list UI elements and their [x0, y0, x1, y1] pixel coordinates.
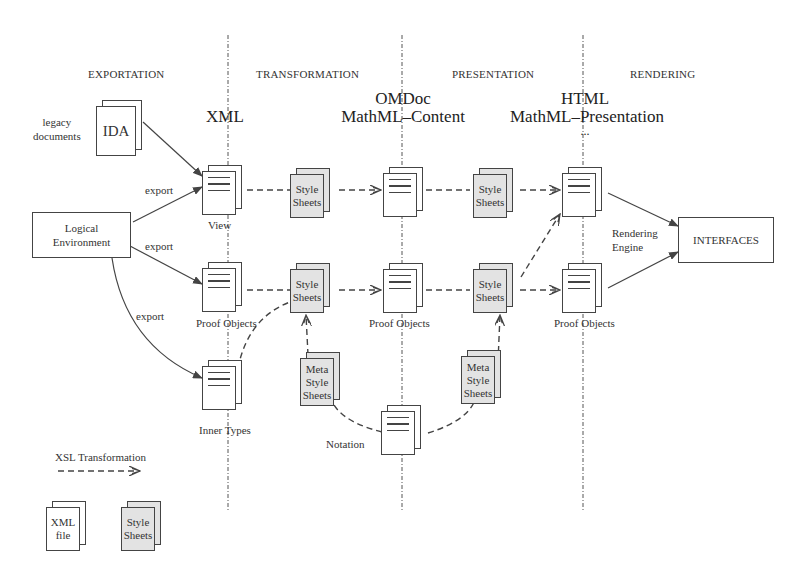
format-html-line1: HTML	[510, 90, 660, 108]
style-sheets-4-label: StyleSheets	[473, 269, 507, 313]
legacy-line1: legacy	[33, 115, 81, 129]
doc-lines-icon	[389, 179, 411, 198]
doc-lines-icon	[208, 177, 230, 196]
legacy-line2: documents	[33, 129, 81, 143]
legend-style-sheets: StyleSheets	[121, 501, 161, 551]
legacy-documents-label: legacy documents	[33, 115, 81, 143]
edge-html-proof-to-interfaces	[608, 252, 678, 288]
ida-document[interactable]: IDA	[96, 100, 144, 156]
html-proof-objects-document[interactable]	[562, 263, 602, 313]
logical-line2: Environment	[53, 235, 110, 249]
style-sheets-1-label: StyleSheets	[290, 174, 324, 218]
rendering-engine-label: Rendering Engine	[612, 226, 658, 254]
xsl-inner-to-ss2	[238, 302, 290, 368]
view-label: View	[208, 219, 231, 231]
legend-style-sheets-label: StyleSheets	[121, 507, 155, 551]
notation-label: Notation	[326, 438, 365, 450]
ida-label: IDA	[96, 106, 136, 156]
proof-objects-xml-label: Proof Objects	[196, 317, 257, 329]
inner-types-document[interactable]	[202, 360, 242, 410]
phase-rendering: RENDERING	[630, 68, 695, 80]
format-omdoc: OMDoc MathML–Content	[333, 90, 473, 126]
meta-style-sheets-1[interactable]: MetaStyleSheets	[300, 352, 340, 408]
inner-types-label: Inner Types	[199, 424, 251, 436]
style-sheets-2[interactable]: StyleSheets	[290, 263, 330, 313]
proof-objects-omdoc-label: Proof Objects	[369, 317, 430, 329]
doc-lines-icon	[389, 275, 411, 294]
doc-lines-icon	[208, 372, 230, 391]
xml-view-document[interactable]	[202, 165, 242, 215]
phase-exportation: EXPORTATION	[88, 68, 164, 80]
edge-ida-to-view	[143, 122, 202, 176]
format-html: HTML MathML–Presentation ...	[510, 90, 660, 136]
legend-xml-file: XMLfile	[46, 501, 86, 551]
format-html-line3: ...	[510, 126, 660, 136]
xsl-meta1-to-ss2	[306, 315, 308, 355]
omdoc-proof-objects-document[interactable]	[383, 263, 423, 313]
doc-lines-icon	[568, 275, 590, 294]
rendering-engine-line1: Rendering	[612, 226, 658, 240]
notation-document[interactable]	[381, 405, 421, 455]
meta-style-sheets-2[interactable]: MetaStyleSheets	[461, 350, 501, 406]
html-view-document[interactable]	[562, 167, 602, 217]
rendering-engine-line2: Engine	[612, 240, 658, 254]
xml-proof-objects-document[interactable]	[202, 262, 242, 312]
meta-1-label: MetaStyleSheets	[300, 358, 334, 406]
interfaces-box[interactable]: INTERFACES	[678, 217, 774, 263]
style-sheets-2-label: StyleSheets	[290, 269, 324, 313]
omdoc-view-document[interactable]	[383, 167, 423, 217]
style-sheets-3-label: StyleSheets	[473, 174, 507, 218]
logical-environment-box[interactable]: Logical Environment	[32, 212, 131, 258]
style-sheets-1[interactable]: StyleSheets	[290, 168, 330, 218]
legend-xsl-label: XSL Transformation	[55, 451, 146, 463]
format-omdoc-line1: OMDoc	[333, 90, 473, 108]
meta-2-label: MetaStyleSheets	[461, 356, 495, 404]
proof-objects-html-label: Proof Objects	[554, 317, 615, 329]
phase-transformation: TRANSFORMATION	[256, 68, 359, 80]
edge-html-view-to-interfaces	[608, 193, 678, 226]
xsl-ss4-to-html-view	[521, 214, 560, 277]
format-xml: XML	[206, 108, 244, 126]
format-omdoc-line2: MathML–Content	[333, 108, 473, 126]
interfaces-label: INTERFACES	[693, 233, 759, 247]
export-label-3: export	[136, 310, 164, 322]
export-label-2: export	[145, 240, 173, 252]
doc-lines-icon	[387, 417, 409, 436]
legend-xml-file-label: XMLfile	[46, 507, 80, 551]
doc-lines-icon	[208, 274, 230, 293]
logical-line1: Logical	[65, 221, 99, 235]
doc-lines-icon	[568, 179, 590, 198]
phase-presentation: PRESENTATION	[452, 68, 534, 80]
export-label-1: export	[145, 184, 173, 196]
style-sheets-3[interactable]: StyleSheets	[473, 168, 513, 218]
style-sheets-4[interactable]: StyleSheets	[473, 263, 513, 313]
